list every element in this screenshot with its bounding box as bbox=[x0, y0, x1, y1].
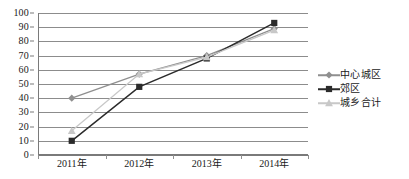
data-point-marker bbox=[68, 95, 75, 102]
data-point-marker bbox=[69, 138, 75, 144]
y-axis-tick bbox=[30, 126, 34, 127]
legend-marker-icon bbox=[318, 69, 340, 81]
series-layer bbox=[38, 13, 308, 155]
y-axis-tick-label: 100 bbox=[13, 8, 29, 18]
y-axis-tick-label: 30 bbox=[19, 107, 29, 117]
x-axis-tick-label: 2012年 bbox=[124, 158, 154, 169]
legend-item[interactable]: 中心城区 bbox=[318, 68, 406, 82]
y-axis-tick-label: 0 bbox=[24, 150, 29, 160]
data-point-marker bbox=[326, 86, 332, 92]
x-axis: 2011年2012年2013年2014年 bbox=[38, 158, 308, 176]
y-axis-tick-label: 90 bbox=[19, 22, 29, 32]
legend-item[interactable]: 城乡合计 bbox=[318, 96, 406, 110]
data-point-marker bbox=[271, 20, 277, 26]
y-axis-tick-label: 20 bbox=[19, 122, 29, 132]
data-point-marker bbox=[325, 71, 332, 78]
x-axis-tick-label: 2011年 bbox=[57, 158, 87, 169]
x-axis-tick bbox=[241, 155, 242, 159]
x-axis-tick bbox=[308, 155, 309, 159]
y-axis-tick bbox=[30, 140, 34, 141]
legend-item[interactable]: 郊区 bbox=[318, 82, 406, 96]
legend-label: 郊区 bbox=[340, 83, 361, 95]
x-axis-tick-label: 2013年 bbox=[192, 158, 222, 169]
y-axis-tick-label: 60 bbox=[19, 65, 29, 75]
y-axis-tick-label: 80 bbox=[19, 36, 29, 46]
data-point-marker bbox=[136, 84, 142, 90]
y-axis-tick bbox=[30, 55, 34, 56]
y-axis-tick-label: 70 bbox=[19, 51, 29, 61]
legend-label: 中心城区 bbox=[340, 69, 381, 81]
y-axis-tick bbox=[30, 155, 34, 156]
legend-marker-icon bbox=[318, 97, 340, 109]
legend-label: 城乡合计 bbox=[340, 97, 381, 109]
y-axis-tick bbox=[30, 69, 34, 70]
line-chart: 1009080706050403020100 2011年2012年2013年20… bbox=[0, 0, 409, 179]
y-axis-tick bbox=[30, 112, 34, 113]
y-axis: 1009080706050403020100 bbox=[0, 13, 34, 155]
legend: 中心城区郊区城乡合计 bbox=[318, 68, 406, 110]
data-point-marker bbox=[325, 99, 333, 106]
x-axis-tick bbox=[38, 155, 39, 159]
legend-marker-icon bbox=[318, 83, 340, 95]
y-axis-tick bbox=[30, 84, 34, 85]
y-axis-tick bbox=[30, 13, 34, 14]
x-axis-tick-label: 2014年 bbox=[259, 158, 289, 169]
plot-area bbox=[38, 13, 308, 155]
y-axis-tick bbox=[30, 98, 34, 99]
y-axis-tick bbox=[30, 41, 34, 42]
y-axis-tick-label: 50 bbox=[19, 79, 29, 89]
x-axis-tick bbox=[106, 155, 107, 159]
y-axis-tick-label: 10 bbox=[19, 136, 29, 146]
y-axis-tick bbox=[30, 27, 34, 28]
x-axis-tick bbox=[173, 155, 174, 159]
y-axis-tick-label: 40 bbox=[19, 93, 29, 103]
